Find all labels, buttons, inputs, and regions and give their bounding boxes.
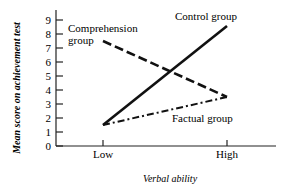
y-tick-label: 2 [46,112,52,124]
y-tick-label: 5 [46,70,52,82]
comprehension-group-label-line2: group [68,34,94,46]
y-tick-labels: 0 1 2 3 4 5 6 7 8 9 [46,14,52,152]
x-tick-label-high: High [216,148,239,160]
y-tick-label: 7 [46,42,52,54]
x-tick-label-low: Low [93,148,113,160]
y-tick-label: 3 [46,98,52,110]
y-ticks [56,20,63,146]
chart-canvas: 0 1 2 3 4 5 6 7 8 9 Low High Control gro… [0,0,288,193]
y-tick-label: 0 [46,140,52,152]
y-tick-label: 1 [46,126,52,138]
y-axis-title: Mean score on achievement test [11,21,22,155]
control-group-label: Control group [175,10,238,22]
comprehension-group-line [103,41,227,97]
y-tick-label: 9 [46,14,52,26]
y-tick-label: 8 [46,28,52,40]
factual-group-label: Factual group [172,112,233,124]
comprehension-group-label-line1: Comprehension [68,22,138,34]
y-tick-label: 6 [46,56,52,68]
y-tick-label: 4 [46,84,52,96]
x-axis-title: Verbal ability [143,173,198,184]
